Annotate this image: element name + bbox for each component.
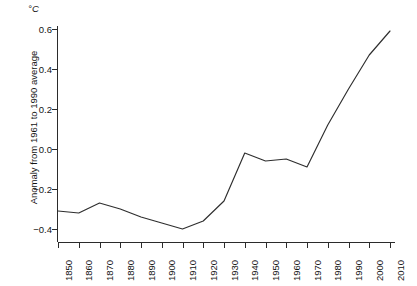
y-tick-marks: [52, 30, 58, 230]
plot-area: [0, 0, 417, 286]
data-series-line: [58, 31, 390, 229]
temperature-anomaly-chart: °C Anomaly from 1961 to 1990 average −0.…: [0, 0, 417, 286]
axes: [58, 26, 396, 243]
x-tick-marks: [59, 243, 391, 249]
